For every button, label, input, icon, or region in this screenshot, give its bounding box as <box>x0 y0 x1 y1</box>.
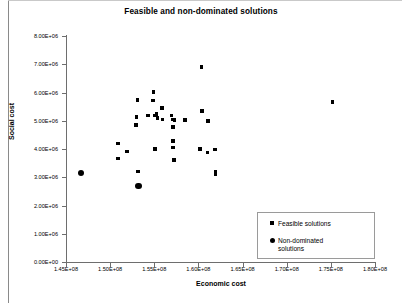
data-point-feasible <box>171 146 175 150</box>
x-tick-label: 1.65E+08 <box>231 266 255 273</box>
x-axis-title: Economic cost <box>66 280 376 287</box>
data-point-feasible <box>206 119 210 123</box>
y-axis-title: Social cost <box>8 87 15 157</box>
data-point-feasible <box>135 115 139 119</box>
data-point-feasible <box>161 118 165 122</box>
data-point-feasible <box>214 173 218 177</box>
chart-title: Feasible and non-dominated solutions <box>0 7 402 16</box>
y-tick-label: 7.00E+06 <box>34 61 58 67</box>
data-point-feasible <box>172 158 176 162</box>
x-axis-line <box>66 262 376 263</box>
y-tick-label: 0.00E+00 <box>34 259 58 265</box>
data-point-feasible <box>198 147 202 151</box>
data-point-feasible <box>200 65 204 69</box>
data-point-non-dominated <box>78 170 84 176</box>
legend-square-marker-icon <box>266 220 278 225</box>
data-point-feasible <box>171 139 175 143</box>
x-tick-label: 1.50E+08 <box>98 266 122 273</box>
data-point-feasible <box>183 118 187 122</box>
data-point-non-dominated <box>135 183 141 189</box>
x-tick-label: 1.75E+08 <box>319 266 343 273</box>
y-tick-label: 6.00E+06 <box>34 90 58 96</box>
data-point-feasible <box>206 151 210 155</box>
x-tick-label: 1.55E+08 <box>142 266 166 273</box>
y-tick-label: 8.00E+06 <box>34 33 58 39</box>
data-point-feasible <box>152 90 156 94</box>
y-tick-label: 2.00E+06 <box>34 203 58 209</box>
chart-figure: Feasible and non-dominated solutions 0.0… <box>0 0 402 303</box>
data-point-feasible <box>171 125 175 129</box>
legend-label-non-dominated-solutions: Non-dominated solutions <box>278 237 323 254</box>
x-tick-label: 1.70E+08 <box>275 266 299 273</box>
data-point-feasible <box>173 118 177 122</box>
x-tick-label: 1.80E+08 <box>363 266 387 273</box>
y-tick-label: 1.00E+06 <box>34 231 58 237</box>
data-point-feasible <box>136 170 140 174</box>
page-border-top <box>8 0 402 1</box>
legend-item-non-dominated-solutions: Non-dominated solutions <box>266 237 323 254</box>
x-tick-label: 1.60E+08 <box>186 266 210 273</box>
y-tick-label: 3.00E+06 <box>34 174 58 180</box>
chart-legend: Feasible solutions Non-dominated solutio… <box>257 212 375 259</box>
data-point-feasible <box>116 157 120 161</box>
data-point-feasible <box>136 98 140 102</box>
data-point-feasible <box>134 123 138 127</box>
data-point-feasible <box>116 142 120 146</box>
data-point-feasible <box>160 106 164 110</box>
data-point-feasible <box>156 116 160 120</box>
data-point-feasible <box>146 114 150 118</box>
y-tick-label: 4.00E+06 <box>34 146 58 152</box>
data-point-feasible <box>125 150 129 154</box>
legend-circle-marker-icon <box>266 237 278 243</box>
legend-label-feasible-solutions: Feasible solutions <box>278 220 331 228</box>
data-point-feasible <box>213 148 217 152</box>
data-point-feasible <box>200 109 204 113</box>
x-tick-label: 1.45E+08 <box>54 266 78 273</box>
legend-item-feasible-solutions: Feasible solutions <box>266 220 331 228</box>
data-point-feasible <box>153 147 157 151</box>
data-point-feasible <box>331 100 335 104</box>
data-point-feasible <box>151 99 155 103</box>
y-tick-label: 5.00E+06 <box>34 118 58 124</box>
